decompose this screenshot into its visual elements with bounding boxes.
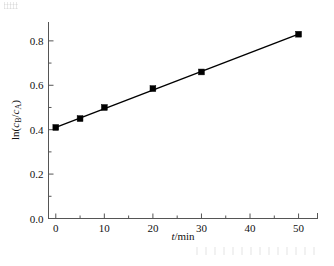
data-point xyxy=(150,86,156,92)
data-point xyxy=(77,116,83,122)
x-tick-label-30: 30 xyxy=(196,222,208,234)
x-tick-label-20: 20 xyxy=(147,222,159,234)
x-tick-label-40: 40 xyxy=(245,222,257,234)
data-point xyxy=(53,125,59,131)
chart-figure: 01020304050 0.00.20.40.60.8 t/min ln(cB/… xyxy=(0,0,334,266)
kinetics-scatter-plot: 01020304050 0.00.20.40.60.8 t/min ln(cB/… xyxy=(0,0,334,266)
y-tick-label-0.4: 0.4 xyxy=(30,124,44,136)
y-tick-label-0.0: 0.0 xyxy=(30,213,44,225)
y-tick-label-0.6: 0.6 xyxy=(30,79,44,91)
scan-artifact-bottom xyxy=(196,247,316,255)
data-point xyxy=(296,31,302,37)
x-tick-label-50: 50 xyxy=(293,222,305,234)
x-tick-label-10: 10 xyxy=(99,222,111,234)
y-axis-tick-labels: 0.00.20.40.60.8 xyxy=(30,35,44,225)
data-point xyxy=(101,105,107,111)
y-axis-title: ln(cB/cA) xyxy=(9,100,23,140)
x-axis-title: t/min xyxy=(171,230,195,242)
data-point xyxy=(199,69,205,75)
fit-line xyxy=(56,34,299,127)
y-tick-label-0.2: 0.2 xyxy=(30,168,44,180)
x-tick-label-0: 0 xyxy=(53,222,59,234)
y-tick-label-0.8: 0.8 xyxy=(30,35,44,47)
scan-artifact-top-left xyxy=(4,2,18,9)
